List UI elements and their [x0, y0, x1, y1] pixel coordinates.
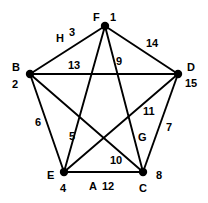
edge-label-13: 13: [68, 60, 80, 71]
graph-vertex-B: [26, 70, 34, 78]
graph-vertex-C: [139, 168, 147, 176]
edge-label-10: 10: [110, 155, 122, 166]
edge-label-A: A: [89, 181, 97, 192]
edge-label-3: 3: [69, 27, 75, 38]
vertex-label-B: B: [12, 62, 20, 73]
vertex-label-15: 15: [185, 78, 197, 89]
edge-label-7: 7: [166, 122, 172, 133]
complete-graph-diagram: 3H1413965117G10A12 F1B2D15E4C8: [0, 0, 208, 203]
edge-label-5: 5: [69, 131, 75, 142]
vertex-label-8: 8: [156, 170, 162, 181]
vertex-label-4: 4: [60, 183, 66, 194]
graph-vertex-F: [101, 22, 109, 30]
graph-canvas: [0, 0, 208, 203]
edge-label-12: 12: [102, 181, 114, 192]
edge-label-H: H: [56, 33, 64, 44]
graph-vertex-E: [60, 168, 68, 176]
vertex-label-2: 2: [12, 79, 18, 90]
vertex-label-D: D: [187, 62, 195, 73]
vertex-label-F: F: [93, 12, 100, 23]
edge-label-6: 6: [35, 117, 41, 128]
edge-label-11: 11: [143, 106, 155, 117]
vertex-label-E: E: [47, 170, 54, 181]
vertex-label-1: 1: [110, 12, 116, 23]
edge-label-14: 14: [146, 38, 158, 49]
edge-label-9: 9: [116, 56, 122, 67]
edge-label-G: G: [138, 132, 147, 143]
vertex-label-C: C: [139, 183, 147, 194]
graph-vertex-D: [174, 70, 182, 78]
